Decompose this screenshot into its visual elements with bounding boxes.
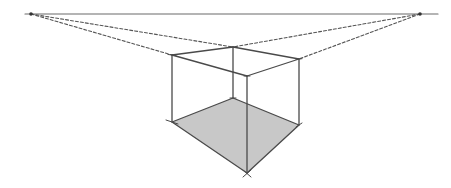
floor-plane [172,98,299,173]
perspective-guide-lines [31,14,420,59]
edge-top-right-front [247,59,299,76]
guide-vp-right-to-top-right [299,14,420,59]
edge-top-left-front [172,55,247,76]
perspective-diagram [0,0,451,188]
vanishing-point-right-icon [418,12,422,16]
edge-top-back-right [233,47,299,59]
floor-shaded-face [172,98,299,173]
edge-top-left-back [172,47,233,55]
guide-vp-left-to-top-left [31,14,172,55]
vanishing-point-left-icon [29,12,33,16]
tick-top-right [296,59,302,60]
guide-vp-right-to-top-back [233,14,420,47]
guide-vp-left-to-top-back [31,14,233,47]
